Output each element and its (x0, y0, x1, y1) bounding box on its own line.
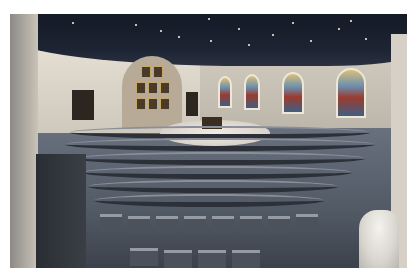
chair-row (88, 180, 338, 193)
chair-row (94, 194, 324, 207)
chair (232, 250, 260, 268)
chair (100, 214, 122, 232)
icon-frame (160, 98, 170, 110)
stained-glass-window-2 (244, 74, 260, 110)
ceiling-light (248, 44, 250, 46)
chair-row (82, 166, 352, 179)
icon-frame (141, 66, 151, 78)
icon-frame (153, 66, 163, 78)
icon-frame (160, 82, 170, 94)
chair (184, 216, 206, 234)
chair (198, 250, 226, 268)
ceiling-light (208, 18, 210, 20)
icon-frame (136, 82, 146, 94)
ceiling-light (338, 28, 340, 30)
left-door (72, 90, 94, 120)
ceiling-light (72, 22, 74, 24)
ceiling-light (350, 20, 352, 22)
icon-niche (122, 56, 182, 128)
chair (240, 216, 262, 234)
chair (128, 216, 150, 234)
church-interior-photo (10, 14, 407, 268)
icon-frame (148, 98, 158, 110)
ceiling-light (160, 30, 162, 32)
aisle (36, 154, 86, 268)
chair-row (65, 138, 375, 151)
ceiling-light (365, 38, 367, 40)
ceiling-light (238, 28, 240, 30)
left-side-wall (10, 14, 38, 268)
ceiling-light (272, 34, 274, 36)
ceiling-light (310, 40, 312, 42)
chair (212, 216, 234, 234)
ceiling-light (178, 36, 180, 38)
stained-glass-window-1 (218, 76, 232, 108)
chair (164, 250, 192, 268)
rear-door (186, 92, 198, 116)
chair-row (75, 152, 365, 165)
chair (130, 248, 158, 266)
ceiling-light (210, 40, 212, 42)
chair (296, 214, 318, 232)
white-statue (359, 210, 399, 268)
icon-frame (136, 98, 146, 110)
stained-glass-window-4 (336, 68, 366, 118)
chair (268, 216, 290, 234)
stained-glass-window-3 (282, 72, 304, 114)
ceiling-light (292, 22, 294, 24)
ceiling-light (135, 24, 137, 26)
chair (156, 216, 178, 234)
icon-frame (148, 82, 158, 94)
